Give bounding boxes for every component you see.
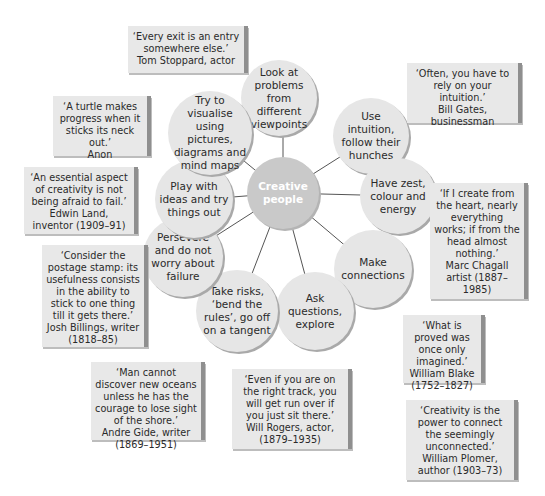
trait-label: Ask questions, explore xyxy=(280,292,350,331)
quote-text: ‘A turtle makes progress when it sticks … xyxy=(57,101,143,149)
quote-author: Marc Chagall artist (1887–1985) xyxy=(434,260,520,296)
quote-text: ‘Even if you are on the right track, you… xyxy=(236,374,344,422)
quote-william-blake: ‘What is proved was once only imagined.’… xyxy=(403,315,485,383)
quote-text: ‘Every exit is an entry somewhere else.’ xyxy=(132,31,240,55)
quote-author: Josh Billings, writer (1818–85) xyxy=(46,322,140,346)
quote-text: ‘An essential aspect of creativity is no… xyxy=(28,172,130,208)
center-label-line1: Creative xyxy=(258,180,308,193)
quote-author: Tom Stoppard, actor xyxy=(132,55,240,67)
quote-text: ‘What is proved was once only imagined.’ xyxy=(407,320,477,368)
trait-have-zest: Have zest, colour and energy xyxy=(360,158,436,234)
trait-try-to-visualise: Try to visualise using pictures, diagram… xyxy=(168,91,252,175)
quote-anon: ‘A turtle makes progress when it sticks … xyxy=(53,96,151,156)
trait-label: Persevere and do not worry about failure xyxy=(147,231,219,283)
quote-author: William Blake (1752–1827) xyxy=(407,368,477,392)
center-creative-people: Creative people xyxy=(247,157,319,229)
trait-label: Have zest, colour and energy xyxy=(364,177,432,216)
quote-text: ‘If I create from the heart, nearly ever… xyxy=(434,188,520,260)
quote-josh-billings: ‘Consider the postage stamp: its usefuln… xyxy=(42,245,148,347)
quote-marc-chagall: ‘If I create from the heart, nearly ever… xyxy=(430,183,528,299)
trait-label: Make connections xyxy=(338,256,408,282)
trait-label: Look at problems from different viewpoin… xyxy=(245,66,313,131)
trait-label: Use intuition, follow their hunches xyxy=(337,110,405,162)
quote-text: ‘Creativity is the power to connect the … xyxy=(410,405,510,453)
quote-text: ‘Often, you have to rely on your intuiti… xyxy=(411,68,514,104)
quote-text: ‘Consider the postage stamp: its usefuln… xyxy=(46,250,140,322)
quote-william-plomer: ‘Creativity is the power to connect the … xyxy=(406,400,518,480)
trait-label: Take risks, ‘bend the rules’, go off on … xyxy=(200,285,274,337)
center-label-line2: people xyxy=(263,193,303,206)
trait-label: Play with ideas and try things out xyxy=(159,180,229,219)
quote-tom-stoppard: ‘Every exit is an entry somewhere else.’… xyxy=(128,26,248,73)
quote-author: Andre Gide, writer (1869–1951) xyxy=(95,427,197,451)
quote-bill-gates: ‘Often, you have to rely on your intuiti… xyxy=(407,63,522,123)
trait-ask-questions: Ask questions, explore xyxy=(276,272,354,350)
trait-look-at-problems: Look at problems from different viewpoin… xyxy=(241,60,317,136)
quote-andre-gide: ‘Man cannot discover new oceans unless h… xyxy=(91,362,205,440)
quote-author: William Plomer, author (1903–73) xyxy=(410,453,510,477)
quote-author: Will Rogers, actor, (1879–1935) xyxy=(236,422,344,446)
quote-edwin-land: ‘An essential aspect of creativity is no… xyxy=(24,167,138,234)
quote-author: Bill Gates, businessman xyxy=(411,104,514,128)
quote-author: Anon xyxy=(57,149,143,161)
quote-text: ‘Man cannot discover new oceans unless h… xyxy=(95,367,197,427)
quote-author: Edwin Land, inventor (1909–91) xyxy=(28,208,130,232)
quote-will-rogers: ‘Even if you are on the right track, you… xyxy=(232,369,352,449)
trait-label: Try to visualise using pictures, diagram… xyxy=(172,94,248,172)
